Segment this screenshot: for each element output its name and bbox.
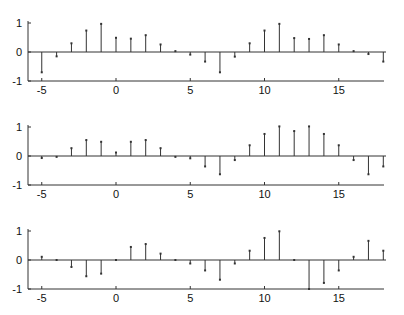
stem-marker bbox=[100, 273, 102, 275]
stem-marker bbox=[56, 55, 58, 57]
stem-marker bbox=[85, 139, 87, 141]
stem-marker bbox=[249, 144, 251, 146]
y-tick-label: -1 bbox=[12, 283, 22, 295]
stem-marker bbox=[174, 259, 176, 261]
stem-marker bbox=[382, 61, 384, 63]
stem-marker bbox=[145, 243, 147, 245]
stem-marker bbox=[353, 159, 355, 161]
stem-marker bbox=[278, 230, 280, 232]
stem-marker bbox=[338, 269, 340, 271]
stem-marker bbox=[219, 173, 221, 175]
stem-marker bbox=[204, 269, 206, 271]
stem-marker bbox=[85, 275, 87, 277]
stem-marker bbox=[278, 125, 280, 127]
x-tick-label: 0 bbox=[113, 84, 119, 96]
x-tick-label: 15 bbox=[333, 188, 345, 200]
stem-marker bbox=[367, 240, 369, 242]
x-tick-label: 15 bbox=[333, 292, 345, 304]
x-tick-label: 5 bbox=[187, 188, 193, 200]
stem-marker bbox=[293, 130, 295, 132]
stem-marker bbox=[308, 125, 310, 127]
stem-marker bbox=[130, 38, 132, 40]
y-tick-label: -1 bbox=[12, 179, 22, 191]
stem-marker bbox=[115, 37, 117, 39]
stem-marker bbox=[204, 165, 206, 167]
x-tick-label: 0 bbox=[113, 292, 119, 304]
stem-marker bbox=[308, 288, 310, 290]
figure: -101-5051015 -101-5051015 -101-5051015 bbox=[0, 0, 404, 315]
stem-marker bbox=[160, 43, 162, 45]
stem-marker bbox=[115, 259, 117, 261]
stem-marker bbox=[41, 157, 43, 159]
stem-marker bbox=[189, 157, 191, 159]
stem-marker bbox=[323, 133, 325, 135]
y-tick-label: 0 bbox=[16, 46, 22, 58]
y-tick-label: -1 bbox=[12, 75, 22, 87]
stem-marker bbox=[85, 30, 87, 32]
stem-marker bbox=[174, 50, 176, 52]
stem-marker bbox=[234, 56, 236, 58]
stem-marker bbox=[308, 38, 310, 40]
x-tick-label: 0 bbox=[113, 188, 119, 200]
stem-marker bbox=[160, 147, 162, 149]
stem-marker bbox=[367, 53, 369, 55]
stem-marker bbox=[234, 262, 236, 264]
stem-marker bbox=[130, 246, 132, 248]
y-tick-label: 0 bbox=[16, 254, 22, 266]
stem-marker bbox=[130, 141, 132, 143]
stem-marker bbox=[174, 156, 176, 158]
x-tick-label: -5 bbox=[37, 188, 47, 200]
stem-marker bbox=[145, 34, 147, 36]
stem-marker bbox=[234, 159, 236, 161]
stem-marker bbox=[264, 133, 266, 135]
stem-marker bbox=[293, 259, 295, 261]
x-tick-label: 10 bbox=[258, 292, 270, 304]
stem-marker bbox=[41, 71, 43, 73]
stem-marker bbox=[382, 165, 384, 167]
stem-marker bbox=[100, 23, 102, 25]
stem-marker bbox=[249, 42, 251, 44]
y-tick-label: 1 bbox=[16, 225, 22, 237]
stem-marker bbox=[353, 50, 355, 52]
stem-marker bbox=[189, 262, 191, 264]
stem-marker bbox=[338, 144, 340, 146]
stem-marker bbox=[353, 256, 355, 258]
stem-marker bbox=[293, 37, 295, 39]
stem-marker bbox=[264, 237, 266, 239]
stem-marker bbox=[219, 279, 221, 281]
x-tick-label: 15 bbox=[333, 84, 345, 96]
stem-marker bbox=[115, 152, 117, 154]
stem-marker bbox=[56, 259, 58, 261]
stem-marker bbox=[264, 30, 266, 32]
stem-marker bbox=[278, 23, 280, 25]
subplot-bottom: -101-5051015 bbox=[12, 225, 386, 304]
stem-marker bbox=[204, 61, 206, 63]
stem-plots-canvas: -101-5051015 -101-5051015 -101-5051015 bbox=[0, 0, 404, 315]
stem-marker bbox=[160, 253, 162, 255]
stem-marker bbox=[56, 156, 58, 158]
stem-marker bbox=[323, 34, 325, 36]
x-tick-label: 10 bbox=[258, 188, 270, 200]
y-tick-label: 1 bbox=[16, 17, 22, 29]
subplot-middle: -101-5051015 bbox=[12, 121, 386, 200]
stem-marker bbox=[70, 266, 72, 268]
stem-marker bbox=[219, 71, 221, 73]
x-tick-label: 10 bbox=[258, 84, 270, 96]
stem-marker bbox=[41, 256, 43, 258]
x-tick-label: -5 bbox=[37, 84, 47, 96]
y-tick-label: 1 bbox=[16, 121, 22, 133]
x-tick-label: 5 bbox=[187, 84, 193, 96]
subplot-top: -101-5051015 bbox=[12, 17, 386, 96]
x-tick-label: -5 bbox=[37, 292, 47, 304]
stem-marker bbox=[338, 43, 340, 45]
x-tick-label: 5 bbox=[187, 292, 193, 304]
stem-marker bbox=[382, 250, 384, 252]
stem-marker bbox=[249, 250, 251, 252]
stem-marker bbox=[323, 282, 325, 284]
stem-marker bbox=[367, 173, 369, 175]
stem-marker bbox=[70, 147, 72, 149]
y-tick-label: 0 bbox=[16, 150, 22, 162]
stem-marker bbox=[145, 139, 147, 141]
stem-marker bbox=[189, 54, 191, 56]
stem-marker bbox=[100, 141, 102, 143]
